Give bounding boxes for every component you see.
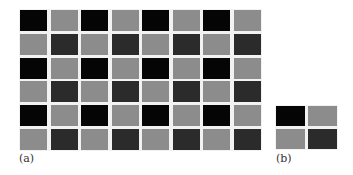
grid-cell-dark	[112, 34, 139, 55]
grid-cell-dark	[51, 34, 78, 55]
grid-cell-gray	[234, 105, 261, 126]
grid-cell-dark	[112, 81, 139, 102]
grid-cell-gray	[173, 10, 200, 31]
grid-cell-black	[142, 58, 169, 79]
grid-cell-dark	[112, 129, 139, 150]
grid-cell-black	[20, 10, 47, 31]
grid-cell-gray	[203, 81, 230, 102]
grid-cell-black	[20, 105, 47, 126]
panel-a-label: (a)	[19, 153, 34, 164]
grid-cell-black	[142, 105, 169, 126]
grid-cell-gray	[234, 58, 261, 79]
grid-cell-gray	[51, 58, 78, 79]
grid-cell-gray	[51, 105, 78, 126]
grid-cell-gray	[308, 106, 337, 126]
grid-cell-dark	[234, 129, 261, 150]
grid-cell-black	[81, 10, 108, 31]
grid-cell-dark	[51, 129, 78, 150]
grid-cell-black	[203, 10, 230, 31]
grid-cell-black	[203, 105, 230, 126]
grid-cell-black	[81, 58, 108, 79]
grid-cell-gray	[20, 129, 47, 150]
grid-cell-gray	[142, 129, 169, 150]
grid-cell-gray	[20, 34, 47, 55]
grid-cell-gray	[276, 129, 305, 149]
grid-cell-dark	[51, 81, 78, 102]
grid-cell-black	[20, 58, 47, 79]
grid-cell-gray	[173, 58, 200, 79]
grid-cell-gray	[112, 58, 139, 79]
grid-cell-gray	[20, 81, 47, 102]
grid-cell-gray	[81, 81, 108, 102]
panel-b-label: (b)	[276, 153, 292, 164]
grid-cell-dark	[173, 129, 200, 150]
grid-cell-gray	[203, 34, 230, 55]
grid-cell-black	[203, 58, 230, 79]
grid-cell-gray	[81, 129, 108, 150]
grid-cell-gray	[142, 34, 169, 55]
grid-cell-gray	[112, 105, 139, 126]
grid-cell-black	[142, 10, 169, 31]
grid-cell-gray	[173, 105, 200, 126]
grid-cell-dark	[173, 34, 200, 55]
grid-cell-dark	[234, 81, 261, 102]
grid-cell-black	[81, 105, 108, 126]
grid-cell-dark	[308, 129, 337, 149]
grid-cell-gray	[203, 129, 230, 150]
grid-cell-gray	[142, 81, 169, 102]
grid-cell-gray	[234, 10, 261, 31]
grid-cell-dark	[173, 81, 200, 102]
grid-cell-gray	[112, 10, 139, 31]
grid-cell-black	[276, 106, 305, 126]
grid-cell-dark	[234, 34, 261, 55]
grid-cell-gray	[51, 10, 78, 31]
grid-cell-gray	[81, 34, 108, 55]
